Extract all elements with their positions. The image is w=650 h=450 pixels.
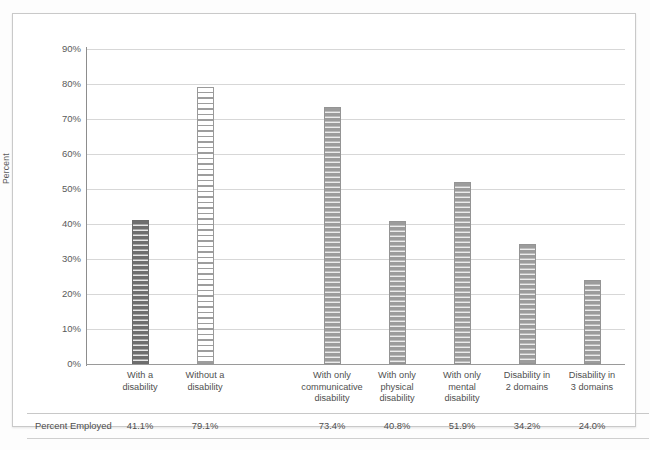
y-tick-40: 40% [35, 219, 81, 229]
table-separator-bottom [27, 438, 649, 439]
y-tick-20: 20% [35, 289, 81, 299]
chart-frame: Percent 90% 80% 70% 60% 50% 40% 30% 20% … [12, 13, 636, 427]
bar-with-a-disability[interactable] [132, 220, 149, 364]
category-label-6: Disability in3 domains [549, 370, 635, 393]
bar-disability-in-3-domains[interactable] [584, 280, 601, 364]
gridline-50 [87, 189, 625, 190]
bar-with-only-physical-disability[interactable] [389, 221, 406, 364]
y-axis-title: Percent [1, 153, 11, 184]
y-tick-0: 0% [35, 359, 81, 369]
gridline-40 [87, 224, 625, 225]
y-tick-90: 90% [35, 44, 81, 54]
scanned-page: Percent 90% 80% 70% 60% 50% 40% 30% 20% … [0, 0, 650, 450]
bar-without-a-disability[interactable] [197, 87, 214, 364]
gridline-60 [87, 154, 625, 155]
y-tick-30: 30% [35, 254, 81, 264]
y-axis-tick-labels: 90% 80% 70% 60% 50% 40% 30% 20% 10% 0% [31, 49, 81, 364]
y-tick-80: 80% [35, 79, 81, 89]
table-cell-1: 79.1% [162, 420, 248, 431]
x-axis-line [86, 364, 625, 365]
gridline-90 [87, 49, 625, 50]
y-tick-50: 50% [35, 184, 81, 194]
table-cell-6: 24.0% [549, 420, 635, 431]
gridline-20 [87, 294, 625, 295]
category-label-1: Without adisability [162, 370, 248, 393]
bar-with-only-mental-disability[interactable] [454, 182, 471, 364]
bar-with-only-communicative-disability[interactable] [324, 107, 341, 364]
y-tick-70: 70% [35, 114, 81, 124]
bar-disability-in-2-domains[interactable] [519, 244, 536, 364]
plot-area [87, 49, 625, 364]
gridline-80 [87, 84, 625, 85]
y-tick-60: 60% [35, 149, 81, 159]
gridline-30 [87, 259, 625, 260]
gridline-10 [87, 329, 625, 330]
table-separator-top [27, 413, 649, 414]
gridline-70 [87, 119, 625, 120]
x-axis-category-labels: With adisability Without adisability Wit… [87, 370, 625, 410]
y-tick-10: 10% [35, 324, 81, 334]
